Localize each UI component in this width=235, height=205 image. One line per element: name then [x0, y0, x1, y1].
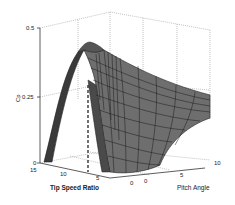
x-tick-5: 5: [96, 175, 99, 181]
z-tick-0.5: 0.5: [26, 25, 34, 31]
plot-canvas: [0, 0, 235, 205]
z-axis-label: Cp: [15, 94, 21, 102]
x-tick-0: 0: [130, 180, 133, 186]
cp-surface: [44, 42, 210, 173]
x-tick-10: 10: [60, 171, 67, 177]
z-tick-0.25: 0.25: [22, 94, 34, 100]
y-axis-label: Pitch Angle: [177, 185, 210, 192]
y-tick-0: 0: [144, 178, 147, 184]
x-tick-15: 15: [30, 167, 37, 173]
surface-plot: 0.5 0.25 0 Cp 15 10 5 0 Tip Speed Ratio …: [0, 0, 235, 205]
x-axis-label: Tip Speed Ratio: [50, 185, 99, 192]
y-tick-10: 10: [214, 160, 221, 166]
z-tick-0: 0: [33, 160, 36, 166]
y-tick-5: 5: [180, 172, 183, 178]
